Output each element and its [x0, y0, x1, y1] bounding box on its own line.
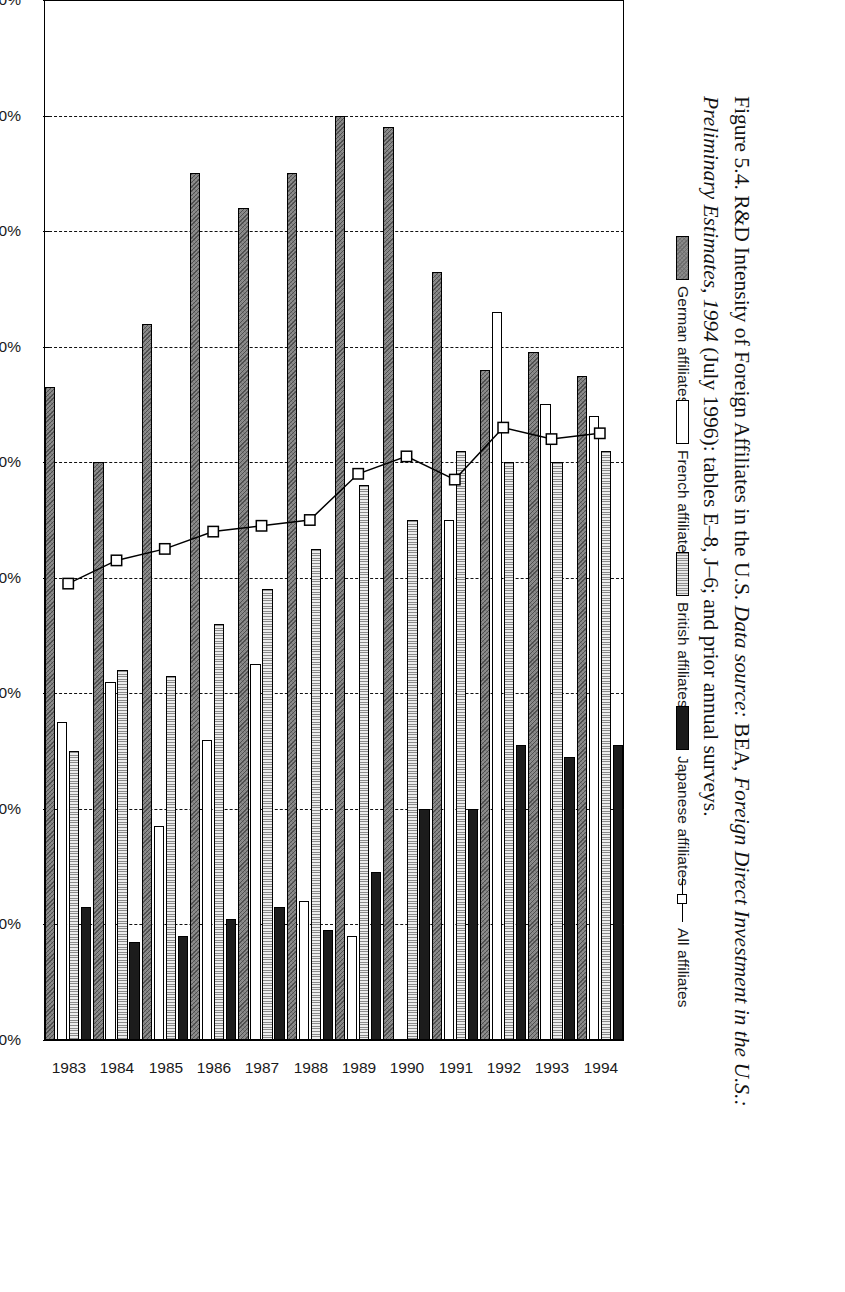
legend-item-french[interactable]: French affiliates [674, 400, 692, 561]
all-affiliates-marker-1989 [353, 469, 363, 479]
value-label-0.60: 0.60% [0, 684, 25, 702]
french-swatch-icon [677, 400, 690, 444]
value-label-0.00: 0.00% [0, 1031, 25, 1049]
line-marker-icon [677, 878, 690, 922]
value-label-1.20: 1.20% [0, 338, 25, 356]
british-swatch-icon [677, 552, 690, 596]
all-affiliates-marker-1987 [256, 521, 266, 531]
category-label-1991: 1991 [430, 1059, 482, 1077]
all-affiliates-marker-1984 [111, 555, 121, 565]
category-label-1989: 1989 [333, 1059, 385, 1077]
legend-label-german: German affiliates [674, 286, 692, 405]
category-label-1993: 1993 [527, 1059, 579, 1077]
caption-prefix: Figure 5.4. R&D Intensity of Foreign Aff… [730, 96, 754, 606]
value-label-1.80: 1.80% [0, 0, 25, 9]
category-label-1983: 1983 [43, 1059, 95, 1077]
all-affiliates-marker-1991 [450, 474, 460, 484]
all-affiliates-marker-1988 [305, 515, 315, 525]
category-label-1984: 1984 [92, 1059, 144, 1077]
all-affiliates-marker-1986 [208, 526, 218, 536]
gridline-0.00 [44, 1040, 624, 1041]
value-label-0.20: 0.20% [0, 915, 25, 933]
value-label-1.00: 1.00% [0, 453, 25, 471]
legend-label-japanese: Japanese affiliates [674, 756, 692, 886]
legend-label-all: All affiliates [674, 928, 692, 1008]
legend-label-british: British affiliates [674, 602, 692, 708]
figure-caption: Figure 5.4. R&D Intensity of Foreign Aff… [696, 96, 757, 1196]
legend-item-british[interactable]: British affiliates [674, 552, 692, 708]
category-label-1987: 1987 [237, 1059, 289, 1077]
value-label-1.60: 1.60% [0, 107, 25, 125]
value-label-0.40: 0.40% [0, 800, 25, 818]
legend-label-french: French affiliates [674, 450, 692, 561]
all-affiliates-marker-1993 [546, 434, 556, 444]
value-label-0.80: 0.80% [0, 569, 25, 587]
all-affiliates-line-series [44, 0, 624, 1040]
all-affiliates-marker-1994 [595, 428, 605, 438]
category-label-1994: 1994 [575, 1059, 627, 1077]
category-label-1985: 1985 [140, 1059, 192, 1077]
legend-item-all[interactable]: All affiliates [674, 878, 692, 1008]
category-label-1986: 1986 [188, 1059, 240, 1077]
axis-tick [43, 1040, 49, 1041]
caption-source-label: Data source: [730, 606, 754, 718]
legend-item-german[interactable]: German affiliates [674, 236, 692, 405]
category-label-1988: 1988 [285, 1059, 337, 1077]
caption-source-tail: (July 1996): tables E–8, J–6; and prior … [699, 342, 723, 817]
caption-source-mid: BEA, [730, 718, 754, 777]
category-label-1992: 1992 [478, 1059, 530, 1077]
all-affiliates-line [68, 428, 600, 584]
japanese-swatch-icon [677, 706, 690, 750]
legend-item-japanese[interactable]: Japanese affiliates [674, 706, 692, 886]
category-label-1990: 1990 [382, 1059, 434, 1077]
plot-area [44, 0, 624, 1040]
all-affiliates-marker-1983 [63, 578, 73, 588]
all-affiliates-marker-1990 [401, 451, 411, 461]
german-swatch-icon [677, 236, 690, 280]
all-affiliates-marker-1985 [160, 544, 170, 554]
chart-stage: German affiliates French affiliates Brit… [0, 0, 716, 1040]
value-label-1.40: 1.40% [0, 222, 25, 240]
all-affiliates-marker-1992 [498, 422, 508, 432]
